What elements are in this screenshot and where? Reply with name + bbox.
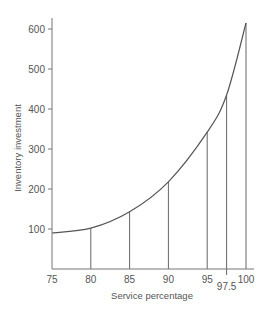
y-tick-label: 200 (28, 184, 45, 195)
y-tick-label: 300 (28, 144, 45, 155)
y-tick-label: 500 (28, 64, 45, 75)
x-tick-label-97-5: 97.5 (217, 281, 237, 292)
y-axis-title: Inventory investment (12, 104, 23, 192)
chart: 100200300400500600 758085909510097.5 Ser… (0, 0, 269, 313)
y-tick-label: 100 (28, 224, 45, 235)
x-tick-label: 80 (85, 274, 97, 285)
x-tick-label: 100 (238, 274, 255, 285)
x-tick-label: 95 (202, 274, 214, 285)
drop-lines (91, 23, 246, 275)
inventory-curve (52, 23, 246, 233)
x-tick-label: 90 (163, 274, 175, 285)
y-axis-ticks: 100200300400500600 (28, 24, 52, 235)
x-tick-label: 75 (46, 274, 58, 285)
x-axis-title: Service percentage (111, 290, 193, 301)
y-tick-label: 400 (28, 104, 45, 115)
x-tick-label: 85 (124, 274, 136, 285)
y-tick-label: 600 (28, 24, 45, 35)
